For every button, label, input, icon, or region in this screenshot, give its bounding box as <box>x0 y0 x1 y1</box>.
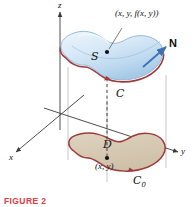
domain-point-dot <box>105 156 109 160</box>
base-curve-subscript: 0 <box>141 181 145 189</box>
surface-point-label: (x, y, f(x, y)) <box>115 9 158 18</box>
curve-label: C <box>116 88 124 99</box>
figure-container: z x y (x, y, f(x, y)) (x, y) S D C C0 N … <box>0 0 195 207</box>
z-axis-label: z <box>58 1 62 10</box>
domain-label: D <box>103 139 112 150</box>
surface-shape <box>61 31 163 80</box>
domain-shape <box>69 133 165 171</box>
x-axis-label: x <box>9 153 13 162</box>
domain-region <box>69 133 165 172</box>
normal-vector-label: N <box>169 38 177 49</box>
figure-caption: FIGURE 2 <box>4 196 46 206</box>
y-axis-label: y <box>181 147 185 156</box>
coordinate-axes <box>16 12 178 152</box>
domain-point-label: (x, y) <box>95 162 113 171</box>
surface-label: S <box>91 51 99 62</box>
surface-point-dot <box>105 50 109 54</box>
surface-region <box>60 31 163 84</box>
figure-graphic <box>0 0 195 207</box>
base-curve-label: C0 <box>133 175 146 189</box>
